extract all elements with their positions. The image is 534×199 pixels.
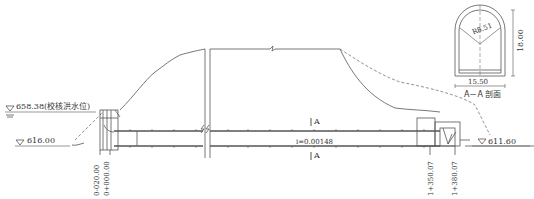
section-mark-top: A <box>314 118 320 126</box>
outlet-structure <box>417 118 435 146</box>
outlet-bed-elevation-label: 611.60 <box>488 138 516 146</box>
section-mark-bottom: A <box>314 152 320 160</box>
cross-section-title: A－A 剖面 <box>464 91 502 99</box>
cross-section-width-label: 15.50 <box>468 79 488 86</box>
break-mark <box>206 125 209 133</box>
cross-section-a-a <box>455 5 515 88</box>
terrain-left <box>120 49 205 110</box>
cross-section-height-label: 18.00 <box>517 29 525 52</box>
inlet-dashed <box>75 113 102 140</box>
check-flood-level-label: 658.38(校核洪水位) <box>16 103 90 111</box>
inlet-bed-elevation-label: 616.00 <box>27 137 55 145</box>
station-label-4: 1+380.07 <box>452 161 459 196</box>
station-label-1: 0-020.00 <box>94 165 101 196</box>
slope-label: i=0.00148 <box>296 139 333 146</box>
break-mark <box>201 125 204 133</box>
station-label-3: 1+350.07 <box>428 161 435 196</box>
station-label-2: 0+000.00 <box>104 161 111 196</box>
